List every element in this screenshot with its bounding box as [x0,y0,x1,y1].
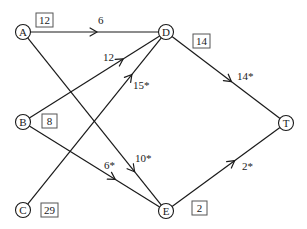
network-diagram: 61215*10*6*14*2* ABCDET 12829142 [0,0,307,229]
arrowhead-icon [115,59,123,66]
value-box-label: 29 [44,204,56,216]
edge-label: 15* [133,79,150,91]
edge-label: 6 [98,14,104,26]
diagram-canvas: 61215*10*6*14*2* ABCDET 12829142 [0,0,307,229]
value-box-label: 14 [196,35,208,47]
node-label: E [163,205,170,217]
value-box-label: 2 [197,202,203,214]
node-e-value-box: 2 [192,201,207,215]
node-label: A [19,26,27,38]
node-d-value-box: 14 [193,34,210,48]
node-label: B [19,116,26,128]
edges-layer: 61215*10*6*14*2* [28,14,280,207]
value-box-label: 8 [47,115,53,127]
node-label: C [19,204,26,216]
node-c: C [16,203,31,218]
edge-label: 10* [135,152,152,164]
node-label: D [162,26,170,38]
edge-line [29,126,159,207]
edge-b-e: 6* [29,126,159,207]
node-t: T [279,116,294,131]
arrowhead-icon [107,172,115,179]
boxes-layer: 12829142 [36,13,210,217]
value-box-label: 12 [39,14,50,26]
node-label: T [283,117,290,129]
edge-d-t: 14* [172,37,280,119]
node-a-value-box: 12 [36,13,53,27]
edge-line [172,127,280,206]
edge-label: 2* [242,160,253,172]
node-a: A [16,25,31,40]
node-b: B [16,115,31,130]
edge-label: 12 [103,51,114,63]
node-c-value-box: 29 [41,203,58,217]
node-d: D [159,25,174,40]
edge-label: 14* [237,70,254,82]
edge-b-d: 12 [29,36,159,118]
edge-line [29,36,159,118]
edge-line [172,37,280,119]
node-e: E [159,204,174,219]
edge-e-t: 2* [172,127,280,206]
edge-label: 6* [104,159,115,171]
node-b-value-box: 8 [42,114,57,128]
